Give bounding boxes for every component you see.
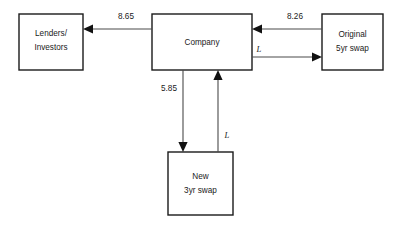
company-label: Company [184, 38, 220, 47]
new-3yr-swap-box [168, 152, 233, 215]
flow-company-to-new-swap: 5.85 [161, 70, 188, 152]
original-5yr-swap-box [322, 14, 383, 70]
flow-new-swap-to-company-label: L [224, 130, 230, 140]
flow-company-to-lenders-label: 8.65 [118, 12, 134, 21]
new-swap-label-line1: New [192, 172, 208, 181]
swap-flow-diagram: Lenders/ Investors Company Original 5yr … [0, 0, 396, 226]
original-5yr-swap-node: Original 5yr swap [322, 14, 383, 70]
lenders-investors-box [19, 14, 83, 70]
new-swap-label-line2: 3yr swap [184, 186, 217, 195]
original-swap-label-line1: Original [338, 30, 366, 39]
flow-company-to-original-swap-label: L [256, 44, 262, 54]
flow-original-swap-to-company-label: 8.26 [287, 12, 303, 21]
diagram-canvas: Lenders/ Investors Company Original 5yr … [0, 0, 396, 226]
flow-company-to-new-swap-arrowhead [178, 142, 187, 152]
flow-company-to-original-swap-arrowhead [312, 52, 322, 61]
company-node: Company [152, 14, 252, 70]
flow-company-to-lenders: 8.65 [83, 12, 152, 33]
flow-company-to-lenders-arrowhead [83, 24, 93, 33]
flow-company-to-new-swap-label: 5.85 [161, 84, 177, 93]
lenders-investors-label-line2: Investors [34, 43, 67, 52]
lenders-investors-node: Lenders/ Investors [19, 14, 83, 70]
lenders-investors-label-line1: Lenders/ [35, 29, 68, 38]
flow-new-swap-to-company-arrowhead [213, 70, 222, 80]
flow-new-swap-to-company: L [213, 70, 229, 152]
original-swap-label-line2: 5yr swap [336, 44, 369, 53]
new-3yr-swap-node: New 3yr swap [168, 152, 233, 215]
flow-company-to-original-swap: L [252, 44, 322, 62]
flow-original-swap-to-company: 8.26 [252, 12, 322, 33]
flow-original-swap-to-company-arrowhead [252, 24, 262, 33]
